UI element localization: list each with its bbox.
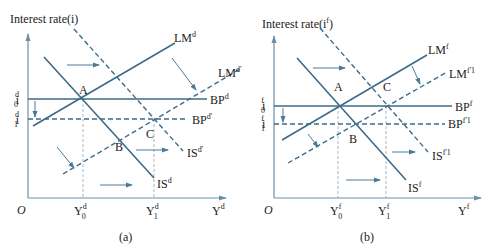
lm-shifted-curve — [288, 72, 447, 163]
point-b-label: B — [115, 140, 123, 154]
x-axis-label: Yf — [458, 202, 470, 218]
shift-arrow-lm-lower — [308, 134, 318, 147]
point-a-label: A — [79, 83, 88, 97]
y-axis-title: Interest rate(i) — [10, 12, 78, 26]
caption-a: (a) — [119, 230, 132, 244]
point-b-label: B — [349, 132, 357, 146]
i1-label: if1 — [261, 114, 266, 133]
panel-b: Interest rate(if) O Yf BPf BPf'1 LMf LMf… — [261, 16, 481, 244]
origin-label: O — [17, 203, 26, 217]
y0-label: Yd0 — [74, 202, 87, 221]
y0-label: Yf0 — [330, 202, 342, 221]
y1-label: Yd1 — [146, 202, 159, 221]
y1-label: Yf1 — [378, 202, 390, 221]
bp-shifted-label: BPf'1 — [448, 116, 471, 131]
is-label: ISf — [408, 180, 422, 195]
lm-shifted-label: LMf'1 — [449, 66, 475, 81]
y-axis-title: Interest rate(if) — [262, 16, 333, 31]
is-label: ISd — [157, 176, 172, 191]
is-curve — [44, 57, 154, 178]
bp-label: BPf — [455, 99, 473, 114]
i1-label: id1 — [14, 110, 20, 129]
is-shifted-label: ISf'1 — [432, 148, 451, 163]
i0-label: id0 — [14, 90, 20, 109]
bp-shifted-label: BPd' — [192, 112, 213, 127]
is-shifted-label: ISd' — [187, 145, 204, 160]
lm-shifted-label: LMd' — [218, 65, 242, 80]
origin-label: O — [264, 203, 273, 217]
lm-curve — [33, 43, 175, 126]
point-c-label: C — [146, 127, 154, 141]
i0-label: if0 — [261, 96, 266, 115]
panel-a: Interest rate(i) O Yd BPd BPd' LMd LMd' … — [10, 12, 242, 244]
shift-arrow-lm-lower — [57, 147, 74, 168]
point-a-label: A — [334, 80, 343, 94]
point-c-label: C — [383, 80, 391, 94]
shift-arrow-lm — [412, 66, 420, 84]
lm-label: LMd — [174, 30, 196, 45]
shift-arrow-lm — [172, 58, 196, 90]
bp-label: BPd — [210, 92, 229, 107]
x-axis-label: Yd — [212, 202, 225, 218]
caption-b: (b) — [360, 230, 374, 244]
lm-label: LMf — [428, 42, 449, 57]
lm-shifted-curve — [63, 69, 240, 174]
is-lm-bp-diagram: Interest rate(i) O Yd BPd BPd' LMd LMd' … — [0, 0, 484, 249]
